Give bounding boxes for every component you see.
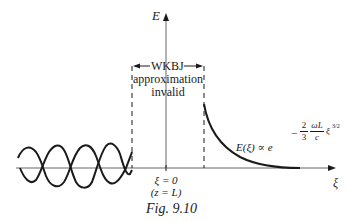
formula-frac2-den: c (310, 133, 324, 142)
right-arrowhead-icon (196, 64, 203, 69)
formula-exp-power: 3/2 (332, 123, 340, 129)
region-label-line1: WKBJ (151, 60, 183, 72)
formula-frac1-num: 2 (300, 121, 308, 130)
evanescent-decay-curve (204, 104, 300, 168)
region-label-line2: approximation (128, 73, 208, 85)
formula-frac2-num: ωL (310, 121, 324, 130)
region-label-line3: invalid (128, 86, 208, 98)
figure-caption: Fig. 9.10 (146, 202, 197, 216)
e-axis-label: E (152, 9, 160, 22)
formula-exp-var: ξ (326, 127, 330, 136)
xi-axis-label: ξ (333, 177, 338, 189)
origin-label-line2: (z = L) (143, 187, 189, 198)
formula-lhs: E(ξ) ∝ e (236, 142, 273, 153)
xi-axis-arrow-icon (328, 165, 336, 171)
origin-label-line1: ξ = 0 (146, 175, 186, 186)
formula-exp-sign: − (291, 128, 297, 139)
oscillating-wave-2 (20, 144, 132, 188)
left-arrowhead-icon (133, 64, 140, 69)
e-axis-arrow-icon (163, 13, 169, 21)
formula-frac1-den: 3 (300, 133, 308, 142)
